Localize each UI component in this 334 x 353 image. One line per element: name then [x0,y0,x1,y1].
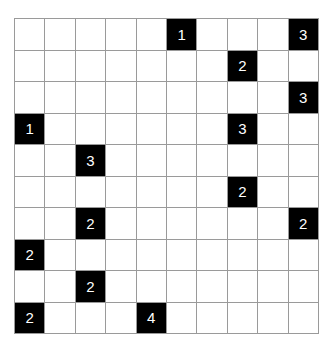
empty-cell-r3-c2[interactable] [76,114,106,146]
empty-cell-r1-c8[interactable] [258,51,288,83]
empty-cell-r9-c2[interactable] [76,303,106,335]
empty-cell-r9-c7[interactable] [228,303,258,335]
empty-cell-r5-c3[interactable] [106,177,136,209]
empty-cell-r9-c1[interactable] [45,303,75,335]
clue-cell-r7-c0: 2 [15,240,45,272]
clue-cell-r2-c9: 3 [289,82,319,114]
empty-cell-r5-c2[interactable] [76,177,106,209]
empty-cell-r7-c2[interactable] [76,240,106,272]
empty-cell-r8-c5[interactable] [167,271,197,303]
empty-cell-r4-c3[interactable] [106,145,136,177]
empty-cell-r7-c5[interactable] [167,240,197,272]
empty-cell-r8-c4[interactable] [137,271,167,303]
empty-cell-r7-c7[interactable] [228,240,258,272]
clue-cell-r6-c2: 2 [76,208,106,240]
empty-cell-r1-c3[interactable] [106,51,136,83]
empty-cell-r4-c5[interactable] [167,145,197,177]
empty-cell-r2-c8[interactable] [258,82,288,114]
empty-cell-r8-c6[interactable] [197,271,227,303]
empty-cell-r6-c8[interactable] [258,208,288,240]
empty-cell-r6-c7[interactable] [228,208,258,240]
empty-cell-r7-c4[interactable] [137,240,167,272]
empty-cell-r2-c7[interactable] [228,82,258,114]
empty-cell-r5-c0[interactable] [15,177,45,209]
empty-cell-r3-c3[interactable] [106,114,136,146]
empty-cell-r3-c9[interactable] [289,114,319,146]
empty-cell-r9-c9[interactable] [289,303,319,335]
empty-cell-r4-c8[interactable] [258,145,288,177]
empty-cell-r8-c7[interactable] [228,271,258,303]
empty-cell-r1-c4[interactable] [137,51,167,83]
empty-cell-r5-c8[interactable] [258,177,288,209]
empty-cell-r7-c1[interactable] [45,240,75,272]
empty-cell-r2-c3[interactable] [106,82,136,114]
empty-cell-r6-c4[interactable] [137,208,167,240]
clue-number: 1 [178,26,186,43]
empty-cell-r5-c4[interactable] [137,177,167,209]
empty-cell-r7-c3[interactable] [106,240,136,272]
empty-cell-r8-c0[interactable] [15,271,45,303]
empty-cell-r0-c0[interactable] [15,19,45,51]
empty-cell-r2-c6[interactable] [197,82,227,114]
clue-cell-r3-c7: 3 [228,114,258,146]
empty-cell-r6-c1[interactable] [45,208,75,240]
empty-cell-r3-c8[interactable] [258,114,288,146]
empty-cell-r2-c2[interactable] [76,82,106,114]
empty-cell-r1-c6[interactable] [197,51,227,83]
empty-cell-r0-c7[interactable] [228,19,258,51]
empty-cell-r3-c5[interactable] [167,114,197,146]
empty-cell-r0-c3[interactable] [106,19,136,51]
empty-cell-r6-c3[interactable] [106,208,136,240]
empty-cell-r4-c9[interactable] [289,145,319,177]
empty-cell-r7-c9[interactable] [289,240,319,272]
empty-cell-r3-c6[interactable] [197,114,227,146]
empty-cell-r8-c9[interactable] [289,271,319,303]
empty-cell-r0-c4[interactable] [137,19,167,51]
empty-cell-r7-c8[interactable] [258,240,288,272]
empty-cell-r2-c4[interactable] [137,82,167,114]
empty-cell-r2-c1[interactable] [45,82,75,114]
empty-cell-r6-c5[interactable] [167,208,197,240]
empty-cell-r1-c5[interactable] [167,51,197,83]
empty-cell-r1-c1[interactable] [45,51,75,83]
empty-cell-r0-c6[interactable] [197,19,227,51]
empty-cell-r8-c8[interactable] [258,271,288,303]
empty-cell-r9-c8[interactable] [258,303,288,335]
empty-cell-r2-c5[interactable] [167,82,197,114]
empty-cell-r1-c9[interactable] [289,51,319,83]
empty-cell-r0-c2[interactable] [76,19,106,51]
empty-cell-r4-c0[interactable] [15,145,45,177]
empty-cell-r8-c3[interactable] [106,271,136,303]
empty-cell-r5-c1[interactable] [45,177,75,209]
empty-cell-r3-c1[interactable] [45,114,75,146]
empty-cell-r9-c5[interactable] [167,303,197,335]
empty-cell-r8-c1[interactable] [45,271,75,303]
clue-number: 1 [26,120,34,137]
empty-cell-r2-c0[interactable] [15,82,45,114]
empty-cell-r5-c5[interactable] [167,177,197,209]
empty-cell-r5-c9[interactable] [289,177,319,209]
clue-cell-r6-c9: 2 [289,208,319,240]
clue-number: 2 [26,246,34,263]
empty-cell-r9-c6[interactable] [197,303,227,335]
clue-number: 2 [26,309,34,326]
empty-cell-r4-c6[interactable] [197,145,227,177]
empty-cell-r6-c0[interactable] [15,208,45,240]
clue-cell-r8-c2: 2 [76,271,106,303]
empty-cell-r4-c4[interactable] [137,145,167,177]
clue-number: 4 [147,309,155,326]
empty-cell-r9-c3[interactable] [106,303,136,335]
empty-cell-r1-c2[interactable] [76,51,106,83]
clue-number: 2 [238,183,246,200]
clue-cell-r9-c0: 2 [15,303,45,335]
empty-cell-r5-c6[interactable] [197,177,227,209]
empty-cell-r4-c7[interactable] [228,145,258,177]
empty-cell-r6-c6[interactable] [197,208,227,240]
clue-number: 3 [299,89,307,106]
empty-cell-r3-c4[interactable] [137,114,167,146]
empty-cell-r7-c6[interactable] [197,240,227,272]
empty-cell-r0-c1[interactable] [45,19,75,51]
empty-cell-r0-c8[interactable] [258,19,288,51]
empty-cell-r4-c1[interactable] [45,145,75,177]
empty-cell-r1-c0[interactable] [15,51,45,83]
